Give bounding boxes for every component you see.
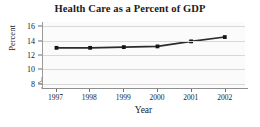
y-tick-label: 16 — [27, 22, 35, 31]
y-tick-label: 8 — [31, 79, 35, 88]
data-point-marker — [55, 46, 59, 50]
data-point-marker — [122, 45, 126, 49]
gridline — [43, 26, 245, 27]
x-tick-mark — [56, 89, 57, 92]
x-tick-mark — [89, 89, 90, 92]
chart-container: Health Care as a Percent of GDP Percent … — [0, 0, 260, 127]
x-tick-label: 1998 — [82, 93, 97, 102]
data-point-marker — [156, 44, 160, 48]
gridline — [43, 41, 245, 42]
x-tick-label: 2002 — [217, 93, 232, 102]
y-axis-tick-group: 810121416 — [0, 22, 42, 88]
x-tick-label: 2001 — [183, 93, 198, 102]
gridline — [43, 69, 245, 70]
gridline — [43, 55, 245, 56]
plot-area — [42, 22, 245, 88]
x-tick-mark — [225, 89, 226, 92]
x-tick-label: 1997 — [48, 93, 63, 102]
data-point-marker — [223, 35, 227, 39]
x-tick-label: 2000 — [150, 93, 165, 102]
data-point-marker — [88, 46, 92, 50]
series-path — [56, 37, 224, 48]
x-tick-label: 1999 — [116, 93, 131, 102]
y-tick-label: 10 — [27, 65, 35, 74]
chart-title: Health Care as a Percent of GDP — [0, 3, 260, 14]
x-axis-tick-group: 199719981999200020012002 — [42, 89, 245, 103]
x-tick-mark — [191, 89, 192, 92]
gridline — [43, 84, 245, 85]
x-tick-mark — [157, 89, 158, 92]
y-tick-label: 12 — [27, 51, 35, 60]
x-tick-mark — [123, 89, 124, 92]
y-tick-label: 14 — [27, 36, 35, 45]
x-axis-title: Year — [42, 105, 245, 115]
